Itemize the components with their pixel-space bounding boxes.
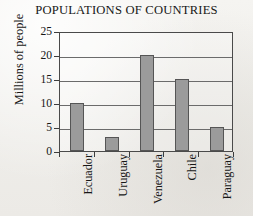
y-axis-tick-label: 5 xyxy=(30,122,52,134)
y-axis-tick xyxy=(54,56,59,57)
x-axis-tick xyxy=(198,152,199,157)
x-axis-label-venezuela: Venezuela xyxy=(152,154,164,214)
x-axis-label-ecuador: Ecuador xyxy=(82,154,94,214)
y-axis-tick xyxy=(54,128,59,129)
chart-page: POPULATIONS OF COUNTRIES Millions of peo… xyxy=(0,0,253,216)
x-axis-tick xyxy=(233,152,234,157)
bar-chile xyxy=(175,79,189,151)
bar-uruguay xyxy=(105,137,119,151)
x-axis-label-chile: Chile xyxy=(186,154,198,214)
y-axis-tick xyxy=(54,104,59,105)
y-axis-tick-label: 15 xyxy=(30,74,52,86)
y-axis-tick-label: 10 xyxy=(30,98,52,110)
y-axis-title: Millions of people xyxy=(12,0,27,120)
x-axis-tick xyxy=(59,152,60,157)
bar-venezuela xyxy=(140,55,154,151)
x-axis-label-uruguay: Uruguay xyxy=(117,154,129,214)
bar-ecuador xyxy=(70,103,84,151)
x-axis-label-paraguay: Paraguay xyxy=(221,154,233,214)
y-axis-tick xyxy=(54,80,59,81)
x-axis-tick xyxy=(163,152,164,157)
y-axis-tick-label: 20 xyxy=(30,50,52,62)
y-axis-tick-label: 25 xyxy=(30,26,52,38)
y-axis-tick xyxy=(54,32,59,33)
bar-paraguay xyxy=(210,127,224,151)
x-axis-tick xyxy=(129,152,130,157)
x-axis-tick xyxy=(94,152,95,157)
y-axis-tick-labels: 0510152025 xyxy=(28,0,52,216)
plot-area xyxy=(59,32,233,152)
y-axis-tick-label: 0 xyxy=(30,146,52,158)
